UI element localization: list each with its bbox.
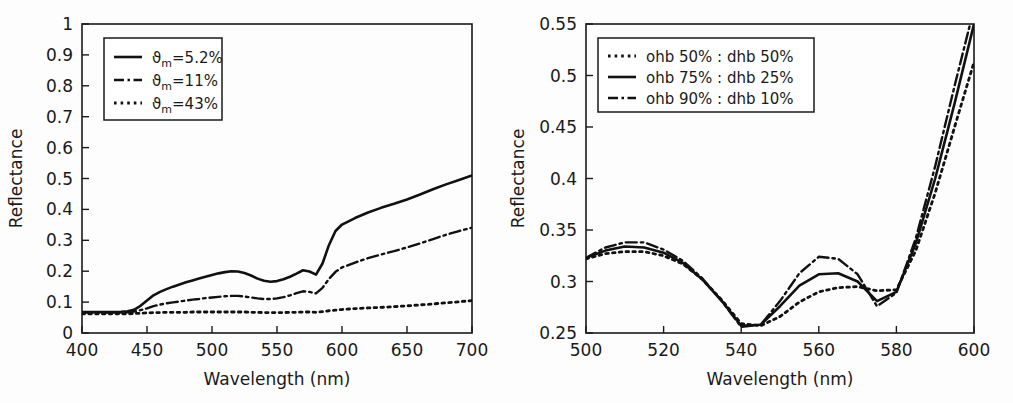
x-tick-label: 700 <box>456 340 488 360</box>
x-tick-label: 520 <box>647 340 679 360</box>
y-tick-label: 0.35 <box>539 220 577 240</box>
legend-label-2: ohb 75% : dhb 25% <box>646 69 794 87</box>
x-tick-label: 650 <box>391 340 423 360</box>
data-series-2 <box>82 228 472 313</box>
figure-container: 00.10.20.30.40.50.60.70.80.9140045050055… <box>0 0 1013 403</box>
y-tick-label: 1 <box>62 14 73 34</box>
y-tick-label: 0.9 <box>46 45 73 65</box>
y-tick-label: 0.4 <box>550 169 577 189</box>
y-axis-title: Reflectance <box>508 129 528 229</box>
y-tick-label: 0.55 <box>539 14 577 34</box>
x-axis-title: Wavelength (nm) <box>707 369 854 389</box>
y-tick-label: 0.45 <box>539 117 577 137</box>
x-tick-label: 540 <box>725 340 757 360</box>
chart-panel-left: 00.10.20.30.40.50.60.70.80.9140045050055… <box>0 0 506 403</box>
x-tick-label: 580 <box>880 340 912 360</box>
y-tick-label: 0.1 <box>46 292 73 312</box>
y-axis-title: Reflectance <box>6 129 26 229</box>
y-tick-label: 0.5 <box>46 169 73 189</box>
y-tick-label: 0.3 <box>550 272 577 292</box>
x-tick-label: 550 <box>261 340 293 360</box>
y-tick-label: 0.3 <box>46 230 73 250</box>
y-tick-label: 0.7 <box>46 107 73 127</box>
y-tick-label: 0.2 <box>46 261 73 281</box>
legend-label-3: ohb 90% : dhb 10% <box>646 90 794 108</box>
x-tick-label: 400 <box>66 340 98 360</box>
chart-legend: ϑm=5.2%ϑm=11%ϑm=43% <box>104 38 223 120</box>
y-tick-label: 0.6 <box>46 138 73 158</box>
x-axis-title: Wavelength (nm) <box>204 369 351 389</box>
reflectance-chart-left: 00.10.20.30.40.50.60.70.80.9140045050055… <box>0 0 506 403</box>
x-tick-label: 600 <box>958 340 990 360</box>
x-tick-label: 600 <box>326 340 358 360</box>
data-series-1 <box>82 175 472 312</box>
y-tick-label: 0.5 <box>550 66 577 86</box>
reflectance-chart-right: 0.250.30.350.40.450.50.55500520540560580… <box>506 0 1013 403</box>
legend-label-1: ohb 50% : dhb 50% <box>646 48 794 66</box>
x-tick-label: 500 <box>196 340 228 360</box>
chart-panel-right: 0.250.30.350.40.450.50.55500520540560580… <box>506 0 1013 403</box>
x-tick-label: 500 <box>570 340 602 360</box>
chart-legend: ohb 50% : dhb 50%ohb 75% : dhb 25%ohb 90… <box>598 38 814 112</box>
y-tick-label: 0.4 <box>46 199 73 219</box>
y-tick-label: 0.8 <box>46 76 73 96</box>
x-tick-label: 560 <box>803 340 835 360</box>
x-tick-label: 450 <box>131 340 163 360</box>
